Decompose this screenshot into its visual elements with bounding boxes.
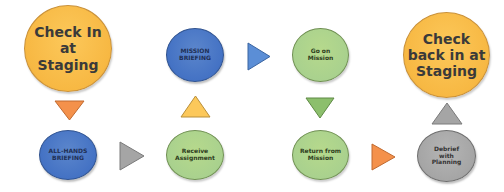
node-all-hands-briefing: ALL-HANDS BRIEFING <box>39 130 97 180</box>
node-go-on-mission: Go on Mission <box>292 28 349 82</box>
arrow-down-icon <box>305 97 335 119</box>
arrow-up-icon <box>431 102 463 125</box>
node-label-line: Staging <box>408 63 486 79</box>
node-label-line: Assignment <box>175 155 215 162</box>
node-label-line: Planning <box>432 159 462 166</box>
node-label-line: BRIEFING <box>49 155 88 162</box>
arrow-right-icon <box>119 141 145 171</box>
node-label-line: Mission <box>308 55 334 62</box>
arrow-up-icon <box>180 95 211 118</box>
node-label-line: Check In <box>34 24 101 40</box>
arrow-right-icon <box>247 42 271 71</box>
node-check-in-at-staging: Check In at Staging <box>24 5 112 92</box>
node-label-line: Mission <box>300 155 341 162</box>
node-label-line: at <box>34 40 101 56</box>
node-check-back-in-at-staging: Check back in at Staging <box>403 12 490 98</box>
node-debrief-with-planning: Debrief with Planning <box>417 130 476 182</box>
node-mission-briefing: MISSION BRIEFING <box>166 28 224 82</box>
arrow-down-icon <box>54 100 85 121</box>
arrow-right-icon <box>371 143 396 171</box>
node-return-from-mission: Return from Mission <box>292 130 349 180</box>
node-receive-assignment: Receive Assignment <box>166 130 224 180</box>
node-label-line: Check <box>408 31 486 47</box>
node-label-line: back in at <box>408 47 486 63</box>
node-label-line: BRIEFING <box>179 55 211 62</box>
node-label-line: Staging <box>34 57 101 73</box>
